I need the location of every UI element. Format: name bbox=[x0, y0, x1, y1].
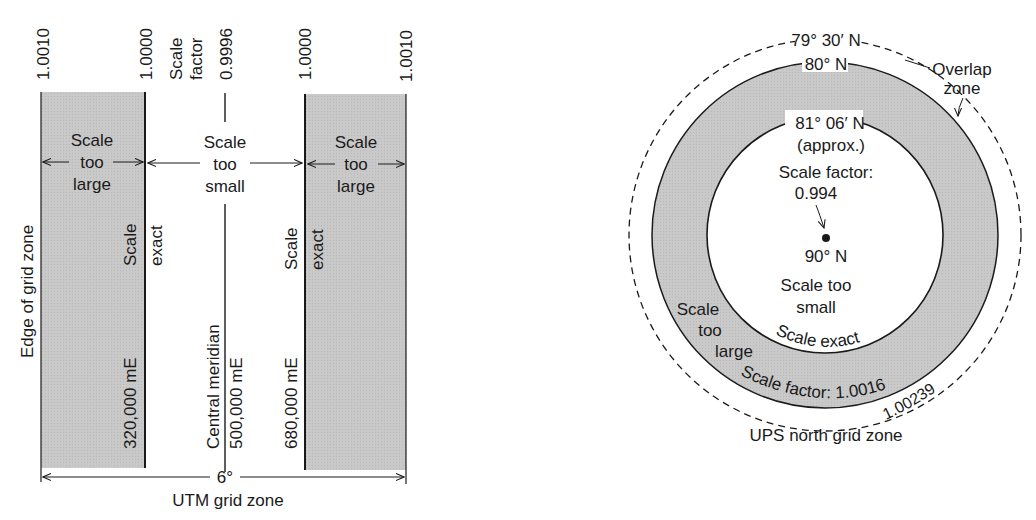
utm-panel: 1.0010 1.0000 Scale factor 0.9996 1.0000… bbox=[18, 28, 416, 510]
outer-latitude: 79° 30′ N bbox=[791, 31, 861, 50]
scale-factor-label-1: Scale bbox=[167, 37, 186, 80]
ups-panel: 79° 30′ N 80° N Overlap zone 81° 06′ N (… bbox=[629, 29, 1021, 445]
too-large-1: Scale bbox=[677, 300, 720, 319]
inner-scale-factor-label: Scale factor: bbox=[779, 163, 874, 182]
inner-latitude: 81° 06′ N bbox=[795, 114, 865, 133]
pole-label: 90° N bbox=[805, 247, 848, 266]
scale-factor-label-2: factor bbox=[187, 37, 206, 80]
left-band-too: too bbox=[80, 153, 104, 172]
left-exact-scale: Scale bbox=[121, 223, 140, 266]
central-meridian-label: Central meridian bbox=[204, 324, 223, 449]
left-band-scale: Scale bbox=[71, 131, 114, 150]
north-pole-point bbox=[822, 234, 830, 242]
right-band-large: large bbox=[337, 177, 375, 196]
right-band-too: too bbox=[344, 155, 368, 174]
left-band-large: large bbox=[73, 175, 111, 194]
middle-band-too: too bbox=[213, 155, 237, 174]
gray-latitude: 80° N bbox=[805, 55, 848, 74]
factor-right-edge: 1.0010 bbox=[397, 30, 416, 82]
inner-scale-factor-value: 0.994 bbox=[795, 184, 838, 203]
ups-caption: UPS north grid zone bbox=[749, 426, 902, 445]
overlap-label-2: zone bbox=[944, 79, 981, 98]
factor-right-exact: 1.0000 bbox=[296, 28, 315, 80]
right-exact-exact: exact bbox=[308, 229, 327, 270]
left-easting: 320,000 mE bbox=[121, 357, 140, 449]
central-easting: 500,000 mE bbox=[227, 357, 246, 449]
scale-factor-diagram: 1.0010 1.0000 Scale factor 0.9996 1.0000… bbox=[0, 0, 1036, 520]
left-exact-exact: exact bbox=[147, 225, 166, 266]
too-large-3: large bbox=[715, 342, 753, 361]
too-large-2: too bbox=[698, 321, 722, 340]
right-exact-scale: Scale bbox=[282, 227, 301, 270]
middle-band-scale: Scale bbox=[204, 133, 247, 152]
factor-central: 0.9996 bbox=[217, 28, 236, 80]
approx-label: (approx.) bbox=[797, 136, 865, 155]
utm-caption: UTM grid zone bbox=[172, 491, 283, 510]
too-small-1: Scale too bbox=[781, 276, 852, 295]
factor-left-edge: 1.0010 bbox=[34, 28, 53, 80]
too-small-2: small bbox=[796, 298, 836, 317]
right-easting: 680,000 mE bbox=[282, 357, 301, 449]
factor-left-exact: 1.0000 bbox=[137, 28, 156, 80]
edge-of-grid-zone-label: Edge of grid zone bbox=[18, 225, 37, 358]
zone-width-label: 6° bbox=[217, 468, 233, 487]
middle-band-small: small bbox=[205, 177, 245, 196]
overlap-label-1: Overlap bbox=[932, 60, 992, 79]
right-band-scale: Scale bbox=[335, 133, 378, 152]
